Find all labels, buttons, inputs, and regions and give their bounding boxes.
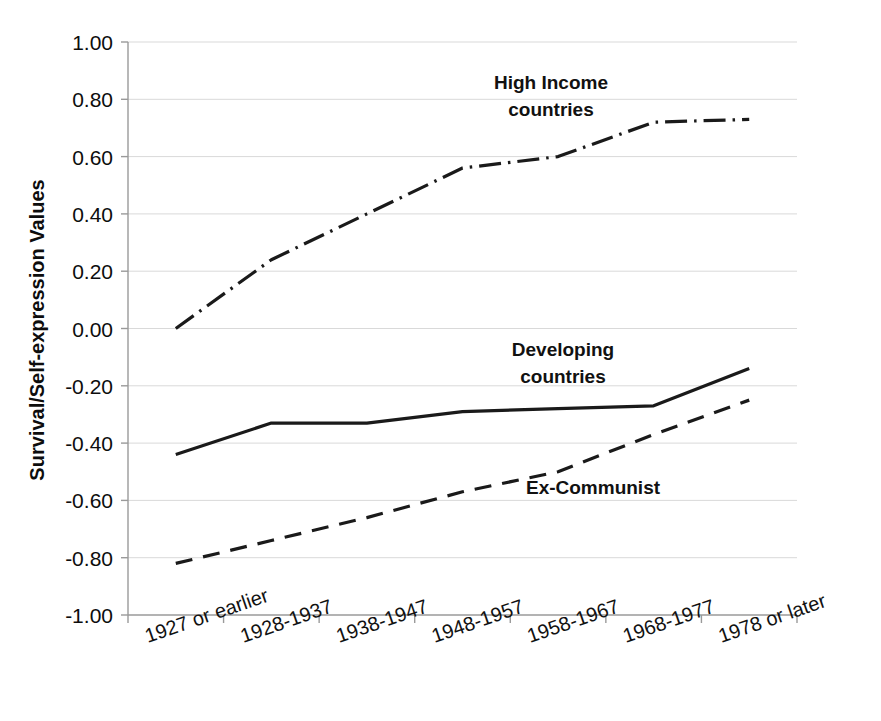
y-tick-label: -1.00 [65, 604, 113, 627]
y-axis-title-text: Survival/Self-expression Values [26, 179, 48, 480]
y-tick-label: 0.80 [72, 88, 113, 111]
y-tick-label: 0.00 [72, 318, 113, 341]
y-tick-label: 0.20 [72, 260, 113, 283]
y-axis-title: Survival/Self-expression Values [26, 179, 48, 480]
line-chart: 1.000.800.600.400.200.00-0.20-0.40-0.60-… [0, 0, 881, 721]
chart-background [0, 0, 881, 721]
y-tick-label: 1.00 [72, 31, 113, 54]
y-tick-label: -0.60 [65, 489, 113, 512]
y-tick-label: -0.40 [65, 432, 113, 455]
series-label-high-income-line1: High Income [494, 72, 608, 93]
y-tick-label: -0.20 [65, 375, 113, 398]
series-label-developing-line1: Developing [512, 339, 614, 360]
chart-container: 1.000.800.600.400.200.00-0.20-0.40-0.60-… [0, 0, 881, 721]
y-tick-label: 0.60 [72, 146, 113, 169]
y-tick-label: 0.40 [72, 203, 113, 226]
series-label-ex-communist: Ex-Communist [526, 477, 661, 498]
series-label-high-income-line2: countries [508, 99, 594, 120]
y-tick-label: -0.80 [65, 547, 113, 570]
series-label-developing-line2: countries [520, 366, 606, 387]
